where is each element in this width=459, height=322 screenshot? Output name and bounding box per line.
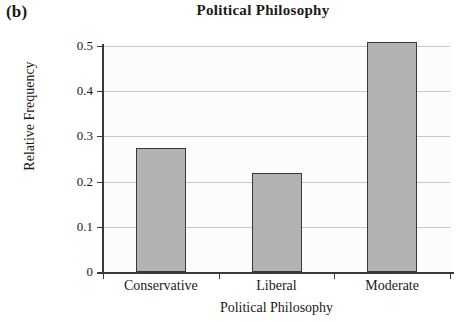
y-tick-label: 0.5	[55, 39, 93, 52]
x-tick-label-moderate: Moderate	[312, 278, 459, 294]
panel-label: (b)	[6, 2, 27, 22]
x-tick-mark	[334, 274, 335, 279]
y-tick-mark	[97, 46, 103, 47]
x-tick-mark	[103, 274, 104, 279]
x-axis-line	[97, 272, 454, 274]
chart-title: Political Philosophy	[103, 2, 423, 19]
y-tick-mark	[97, 272, 103, 273]
y-tick-mark	[97, 227, 103, 228]
y-tick-label: 0	[55, 265, 93, 278]
x-axis-title: Political Philosophy	[103, 300, 450, 316]
bar-conservative	[136, 148, 186, 272]
y-tick-mark	[97, 182, 103, 183]
y-axis-title: Relative Frequency	[22, 36, 38, 196]
bar-moderate	[367, 42, 417, 272]
y-tick-label: 0.2	[55, 175, 93, 188]
y-tick-mark	[97, 91, 103, 92]
x-tick-mark	[219, 274, 220, 279]
y-axis-line	[102, 44, 104, 273]
y-tick-label: 0.1	[55, 220, 93, 233]
y-tick-label: 0.3	[55, 129, 93, 142]
x-tick-mark	[450, 274, 451, 279]
y-tick-mark	[97, 136, 103, 137]
y-tick-label: 0.4	[55, 84, 93, 97]
bar-liberal	[252, 173, 302, 272]
